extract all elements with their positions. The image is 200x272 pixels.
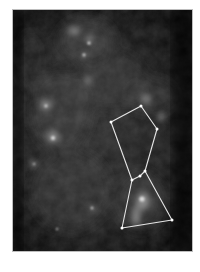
star-marker — [171, 219, 174, 222]
star-marker — [156, 128, 159, 131]
star-marker — [121, 227, 124, 230]
star-marker — [140, 105, 143, 108]
constellation-line — [145, 171, 172, 220]
constellation-line — [141, 106, 157, 129]
constellation-line — [111, 122, 132, 180]
constellation-line — [111, 106, 141, 122]
constellation-lines — [111, 106, 172, 228]
constellation-line — [122, 220, 172, 228]
star-marker — [110, 121, 113, 124]
star-marker — [144, 170, 147, 173]
constellation-stars — [110, 105, 174, 230]
constellation-overlay — [13, 10, 193, 252]
star-marker — [139, 175, 142, 178]
sky-image — [12, 9, 193, 252]
star-marker — [131, 179, 134, 182]
constellation-line — [122, 180, 132, 228]
constellation-line — [145, 129, 157, 171]
